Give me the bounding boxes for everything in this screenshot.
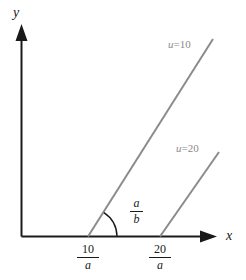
curve-label-u-10-value: 10 [180,38,191,50]
y-axis-label: y [13,6,19,20]
x-axis-label: x [226,229,232,243]
figure-canvas [0,0,246,280]
angle-arc [104,213,117,237]
curve-label-u-20: u=20 [176,143,199,154]
x-axis [22,231,218,243]
x-tick-20-denominator: a [149,258,171,272]
curve-u-10 [88,39,213,237]
curve-label-u-10: u=10 [168,39,191,50]
x-tick-label-10-over-a: 10 a [77,243,99,271]
angle-denominator: b [130,212,143,226]
x-tick-20-numerator: 20 [149,243,171,257]
angle-numerator: a [130,197,143,211]
angle-label-a-over-b: a b [130,197,143,225]
y-axis [16,24,28,237]
curve-label-u-20-value: 20 [188,142,199,154]
x-tick-10-denominator: a [77,258,99,272]
figure-root: y x u=10 u=20 10 a 20 a a b [0,0,246,280]
x-tick-10-numerator: 10 [77,243,99,257]
x-tick-label-20-over-a: 20 a [149,243,171,271]
curve-u-20 [160,152,219,237]
